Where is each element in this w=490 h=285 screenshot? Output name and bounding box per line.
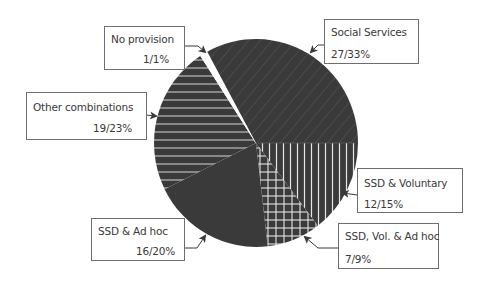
label-ssd-vol-adhoc: SSD, Vol. & Ad hoc 7/9% — [338, 223, 439, 269]
arrow-ssd-adhoc — [184, 236, 205, 248]
label-name: SSD, Vol. & Ad hoc — [345, 230, 439, 242]
label-value: 7/9% — [345, 253, 371, 265]
label-value: 16/20% — [136, 245, 175, 257]
label-name: No provision — [111, 33, 174, 45]
label-name: SSD & Ad hoc — [98, 225, 168, 237]
label-name: Social Services — [331, 26, 407, 38]
label-value: 12/15% — [364, 198, 403, 210]
arrow-other — [146, 115, 156, 116]
label-value: 1/1% — [143, 53, 169, 65]
label-name: Other combinations — [33, 101, 133, 113]
arrow-no-provision — [184, 46, 205, 52]
arrow-ssd-vol-adhoc — [305, 237, 338, 248]
arrow-ssd-voluntary — [343, 193, 357, 195]
label-ssd-adhoc: SSD & Ad hoc 16/20% — [91, 218, 185, 261]
label-name: SSD & Voluntary — [364, 177, 447, 189]
label-value: 27/33% — [331, 48, 370, 60]
label-social-services: Social Services 27/33% — [324, 19, 419, 64]
label-ssd-voluntary: SSD & Voluntary 12/15% — [357, 168, 463, 213]
label-no-provision: No provision 1/1% — [104, 26, 185, 70]
label-other-combinations: Other combinations 19/23% — [26, 92, 147, 140]
arrow-social-services — [311, 45, 324, 52]
label-value: 19/23% — [93, 122, 132, 134]
